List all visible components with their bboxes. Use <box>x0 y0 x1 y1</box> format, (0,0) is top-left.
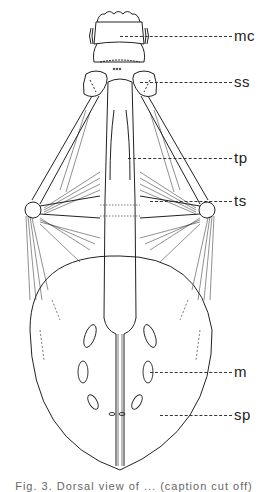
label-m: m <box>234 364 247 379</box>
structure-sp <box>30 256 212 470</box>
leader-mc <box>120 36 232 37</box>
head-mc <box>90 12 149 70</box>
label-ss: ss <box>234 74 250 89</box>
label-mc: mc <box>234 28 255 43</box>
muscle-fibers <box>26 110 214 300</box>
leader-m <box>150 372 232 373</box>
figure-caption: Fig. 3. Dorsal view of ... (caption cut … <box>0 480 268 492</box>
label-ts: ts <box>234 193 247 208</box>
leader-sp <box>160 415 232 416</box>
label-sp: sp <box>234 407 251 422</box>
leader-ss <box>140 82 232 83</box>
structure-tp <box>104 79 136 466</box>
structure-m <box>78 323 159 415</box>
leader-ts <box>150 201 232 202</box>
structure-ss <box>83 71 156 97</box>
label-tp: tp <box>234 150 248 165</box>
side-arms <box>25 96 215 218</box>
leader-tp <box>128 158 232 159</box>
